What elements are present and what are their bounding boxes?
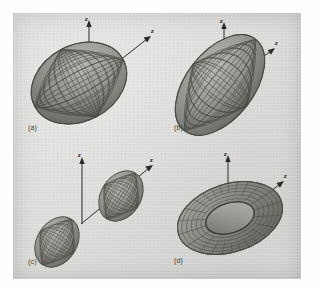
hyperboloid-sheet-lower-c [26,209,89,276]
subfigure-d: z z (d) [158,146,301,279]
caption-b: (b) [174,124,183,131]
caption-a: (a) [28,124,37,131]
ellipsoid-surface-a [17,26,141,140]
axis-label-z-c: z [78,151,81,159]
axis-label-z-b: z [220,17,223,25]
subfigure-c: z z (c) [13,146,163,279]
caption-c: (c) [28,258,37,265]
axis-label-z-d: z [224,150,227,158]
caption-d: (d) [174,257,183,264]
axis-label-second-d: z [284,172,287,180]
z-axis-c [79,157,84,224]
axis-label-second-b: z [275,39,278,47]
figure-image: z z (a) [0,0,317,292]
axis-label-second-a: z [151,27,154,35]
subfigure-a: z z (a) [13,13,163,146]
axis-label-z-a: z [85,15,88,23]
axis-label-second-c: z [150,156,153,164]
subfigure-b: z z (b) [158,13,301,146]
